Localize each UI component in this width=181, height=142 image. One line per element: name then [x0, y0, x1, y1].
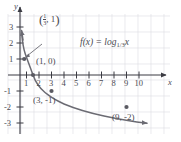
point-one-zero — [31, 73, 35, 77]
x-tick-label-9: 9 — [124, 79, 128, 88]
point-label-rest: , 1 — [46, 14, 55, 24]
y-tick-label-2: 2 — [9, 39, 13, 48]
graph-canvas — [0, 0, 181, 142]
y-tick-label-1: 1 — [9, 55, 13, 64]
function-equation-label: f(x) = log1/3x — [80, 38, 129, 48]
function-argument: x — [125, 37, 129, 47]
y-tick-label-neg-3: -3 — [4, 119, 11, 128]
point-three-neg-one — [49, 89, 53, 93]
x-tick-label-8: 8 — [112, 79, 116, 88]
point-nine-neg-two — [124, 105, 128, 109]
log-base: 1/3 — [116, 41, 124, 48]
fraction-one-third: 13 — [43, 13, 46, 27]
point-label-three-neg-one: (3, -1) — [33, 96, 56, 105]
point-label-one-third-one: (13, 1) — [39, 13, 60, 27]
y-tick-label-neg-1: -1 — [4, 87, 11, 96]
y-tick-label-neg-2: -2 — [4, 103, 11, 112]
x-tick-label-6: 6 — [87, 79, 91, 88]
x-tick-label-10: 10 — [135, 79, 144, 88]
x-tick-label-4: 4 — [62, 79, 66, 88]
y-axis — [17, 7, 24, 134]
logarithmic-function-graph: 3 2 1 -1 -2 -3 1 2 3 4 5 6 7 8 9 10 y x … — [0, 0, 181, 142]
paren-close: ) — [55, 12, 59, 27]
x-tick-label-1: 1 — [24, 79, 28, 88]
x-tick-label-3: 3 — [49, 79, 53, 88]
x-tick-label-7: 7 — [99, 79, 103, 88]
point-label-nine-neg-two: (9, -2) — [112, 113, 135, 122]
function-name: f(x) = log — [80, 37, 116, 47]
point-label-one-zero: (1, 0) — [36, 57, 56, 66]
x-tick-label-2: 2 — [37, 79, 41, 88]
y-tick-label-3: 3 — [9, 23, 13, 32]
point-one-third-one — [22, 57, 26, 61]
x-tick-label-5: 5 — [74, 79, 78, 88]
x-axis-label: x — [168, 78, 172, 87]
y-axis-label: y — [14, 2, 18, 11]
